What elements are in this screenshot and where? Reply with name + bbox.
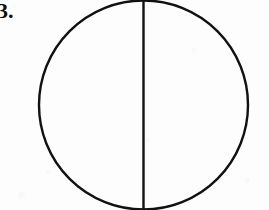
circle-diagram (0, 0, 269, 210)
figure-page: 3. (0, 0, 269, 210)
